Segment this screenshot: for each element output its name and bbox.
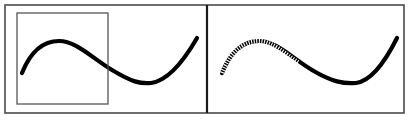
figure-root bbox=[0, 0, 413, 121]
curve-comparison-figure bbox=[0, 0, 413, 121]
